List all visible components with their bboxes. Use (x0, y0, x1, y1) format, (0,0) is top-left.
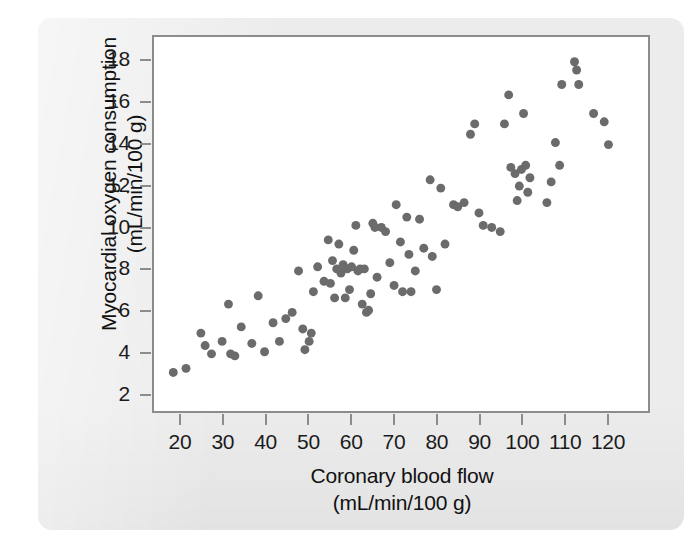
figure-page: Myocardial oxygen consumption (mL/min/10… (0, 0, 694, 548)
scatter-point (334, 240, 343, 249)
y-tick-label-2: 2 (34, 382, 130, 406)
scatter-point (460, 198, 469, 207)
y-tick-label-6: 6 (34, 298, 130, 322)
scatter-point (525, 173, 534, 182)
scatter-point (373, 273, 382, 282)
y-tick-18 (140, 59, 151, 61)
scatter-point (475, 209, 484, 218)
scatter-point (207, 349, 216, 358)
scatter-point (288, 308, 297, 317)
scatter-point (504, 90, 513, 99)
scatter-point (604, 140, 613, 149)
scatter-point (466, 130, 475, 139)
scatter-point (574, 80, 583, 89)
x-tick-70 (393, 414, 395, 425)
scatter-point (324, 235, 333, 244)
scatter-point (230, 351, 239, 360)
x-axis-title: Coronary blood flow (mL/min/100 g) (150, 462, 654, 516)
y-tick-12 (140, 185, 151, 187)
scatter-point (513, 196, 522, 205)
scatter-point (392, 200, 401, 209)
x-tick-90 (479, 414, 481, 425)
x-tick-120 (607, 414, 609, 425)
scatter-point (351, 221, 360, 230)
scatter-point (519, 109, 528, 118)
scatter-point (237, 322, 246, 331)
scatter-point (419, 244, 428, 253)
scatter-point (436, 184, 445, 193)
scatter-point (547, 177, 556, 186)
scatter-point (441, 240, 450, 249)
scatter-point (364, 306, 373, 315)
x-axis-title-line2: (mL/min/100 g) (150, 489, 654, 516)
scatter-point (381, 227, 390, 236)
x-tick-100 (521, 414, 523, 425)
scatter-point (196, 329, 205, 338)
scatter-point (360, 264, 369, 273)
scatter-point (358, 300, 367, 309)
scatter-point (432, 285, 441, 294)
y-tick-label-14: 14 (34, 131, 130, 155)
x-tick-20 (179, 414, 181, 425)
scatter-point (341, 293, 350, 302)
scatter-point (269, 318, 278, 327)
scatter-point (470, 119, 479, 128)
scatter-point (300, 345, 309, 354)
y-tick-6 (140, 310, 151, 312)
scatter-point (402, 213, 411, 222)
scatter-point (407, 287, 416, 296)
scatter-point (570, 57, 579, 66)
x-tick-50 (307, 414, 309, 425)
scatter-points-layer (154, 37, 648, 411)
scatter-point (330, 293, 339, 302)
scatter-point (247, 339, 256, 348)
scatter-point (298, 325, 307, 334)
scatter-point (572, 66, 581, 75)
scatter-point (515, 182, 524, 191)
y-tick-label-8: 8 (34, 256, 130, 280)
scatter-point (555, 161, 564, 170)
scatter-point (349, 246, 358, 255)
scatter-point (309, 287, 318, 296)
y-tick-label-18: 18 (34, 47, 130, 71)
y-tick-4 (140, 352, 151, 354)
scatter-point (479, 221, 488, 230)
scatter-point (404, 250, 413, 259)
scatter-point (345, 285, 354, 294)
x-tick-80 (436, 414, 438, 425)
scatter-point (428, 252, 437, 261)
y-tick-label-4: 4 (34, 340, 130, 364)
scatter-point (366, 289, 375, 298)
scatter-point (557, 80, 566, 89)
scatter-point (496, 227, 505, 236)
scatter-point (294, 267, 303, 276)
scatter-point (589, 109, 598, 118)
scatter-point (523, 188, 532, 197)
scatter-point (542, 198, 551, 207)
y-tick-14 (140, 143, 151, 145)
scatter-point (521, 161, 530, 170)
scatter-point (398, 287, 407, 296)
scatter-point (281, 314, 290, 323)
scatter-point (500, 119, 509, 128)
x-tick-110 (564, 414, 566, 425)
y-tick-8 (140, 268, 151, 270)
x-tick-30 (222, 414, 224, 425)
scatter-point (426, 175, 435, 184)
scatter-point (396, 238, 405, 247)
scatter-point (182, 364, 191, 373)
scatter-point (411, 267, 420, 276)
scatter-point (385, 258, 394, 267)
scatter-point (254, 291, 263, 300)
scatter-point (260, 347, 269, 356)
scatter-point (551, 138, 560, 147)
x-tick-40 (265, 414, 267, 425)
scatter-point (487, 223, 496, 232)
scatter-point (218, 337, 227, 346)
scatter-point (305, 337, 314, 346)
scatter-point (169, 368, 178, 377)
x-axis-title-line1: Coronary blood flow (150, 462, 654, 489)
scatter-point (201, 341, 210, 350)
y-tick-label-10: 10 (34, 215, 130, 239)
scatter-point (307, 329, 316, 338)
